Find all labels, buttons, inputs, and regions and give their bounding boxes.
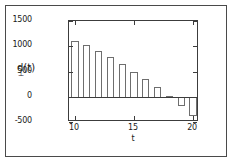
- y-tick-mark: [69, 72, 73, 73]
- x-tick-mark: [75, 116, 76, 120]
- y-tick-mark: [69, 97, 73, 98]
- x-tick-mark: [193, 116, 194, 120]
- x-tick-mark-top: [134, 21, 135, 25]
- y-tick-label: 1500: [12, 16, 32, 24]
- bar: [178, 97, 185, 106]
- bar: [95, 51, 102, 96]
- y-tick-label: -500: [15, 117, 32, 125]
- bar: [154, 87, 161, 97]
- x-tick-mark-top: [75, 21, 76, 25]
- y-tick-mark: [69, 46, 73, 47]
- y-tick-mark: [69, 21, 73, 22]
- y-tick-mark-right: [193, 72, 197, 73]
- bar: [71, 41, 78, 97]
- bar: [119, 64, 126, 97]
- bar: [83, 45, 90, 97]
- bars-layer: [69, 21, 197, 120]
- bar: [189, 97, 196, 116]
- y-tick-mark-right: [193, 46, 197, 47]
- y-tick-label: 1000: [12, 41, 32, 49]
- y-tick-label: 500: [17, 67, 32, 75]
- x-tick-mark: [134, 116, 135, 120]
- bar: [107, 57, 114, 96]
- y-tick-mark-right: [193, 97, 197, 98]
- plot-area: [68, 20, 198, 121]
- x-tick-label: 15: [121, 124, 145, 132]
- x-axis-title: t: [68, 135, 198, 143]
- bar: [130, 72, 137, 97]
- zero-baseline: [69, 97, 197, 98]
- x-tick-label: 20: [180, 124, 204, 132]
- x-tick-label: 10: [62, 124, 86, 132]
- chart-screenshot: d(t) ⊥ 150010005000-500 101520 t: [0, 0, 234, 167]
- x-tick-mark-top: [193, 21, 194, 25]
- bar: [142, 79, 149, 97]
- y-tick-label: 0: [27, 92, 32, 100]
